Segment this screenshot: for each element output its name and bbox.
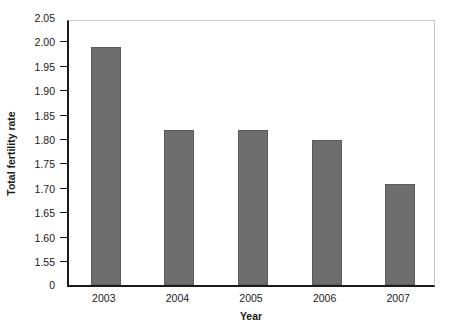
y-axis-tick-label: 1.75 [35,159,55,170]
y-axis-tick: 2.00 [60,41,69,42]
bar [91,47,121,285]
y-axis-tick-label: 1.85 [35,110,55,121]
y-axis-tick-label: 2.00 [35,37,55,48]
y-axis-tick: 1.60 [60,237,69,238]
y-axis-tick-label: 1.65 [35,208,55,219]
bar [385,184,415,285]
y-axis-tick-label: 2.05 [35,13,55,24]
bar-chart-figure: 2.052.001.951.901.851.801.751.701.651.60… [0,0,452,335]
y-axis-tick: 1.95 [60,66,69,67]
plot-area: 2.052.001.951.901.851.801.751.701.651.60… [67,20,435,287]
y-axis-tick-label: 1.80 [35,135,55,146]
y-axis-tick: 1.80 [60,139,69,140]
x-axis-tick-label: 2006 [288,293,362,304]
y-axis-tick-label: 0 [49,280,55,291]
y-axis-tick: 1.85 [60,115,69,116]
y-axis-title: Total fertility rate [4,20,18,287]
x-axis-tick-label: 2004 [141,293,215,304]
y-axis-tick-label: 1.95 [35,62,55,73]
bar [312,140,342,285]
bar [164,130,194,285]
y-axis-tick: 1.65 [60,212,69,213]
x-axis-title: Year [67,311,435,322]
y-axis-tick: 1.75 [60,163,69,164]
y-axis-tick: 1.55 [60,261,69,262]
y-axis-tick-label: 1.90 [35,86,55,97]
y-axis-tick: 1.90 [60,90,69,91]
x-axis-tick-label: 2007 [361,293,435,304]
y-axis-tick-label: 1.70 [35,184,55,195]
y-axis-tick-label: 1.60 [35,232,55,243]
y-axis-tick: 1.70 [60,188,69,189]
x-axis-tick-label: 2005 [214,293,288,304]
bar [238,130,268,285]
y-axis-tick-label: 1.55 [35,257,55,268]
x-axis-tick-label: 2003 [67,293,141,304]
